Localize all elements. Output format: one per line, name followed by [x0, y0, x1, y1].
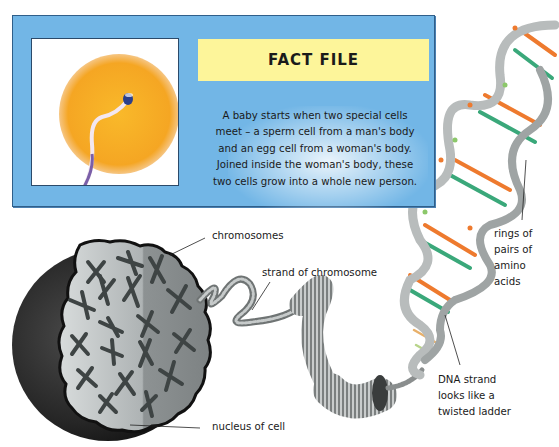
- label-line: acids: [494, 274, 532, 290]
- label-line: looks like a: [438, 388, 511, 404]
- label-strand: strand of chromosome: [262, 265, 377, 281]
- fact-line: A baby starts when two special cells: [199, 108, 431, 124]
- label-line: amino: [494, 258, 532, 274]
- label-line: rings of: [494, 226, 532, 242]
- label-line: DNA strand: [438, 372, 511, 388]
- fact-line: and an egg cell from a woman's body.: [199, 141, 431, 157]
- label-line: twisted ladder: [438, 404, 511, 420]
- label-line: pairs of: [494, 242, 532, 258]
- fact-file-title: FACT FILE: [268, 51, 359, 69]
- fact-file-text: A baby starts when two special cells mee…: [199, 108, 431, 190]
- nucleus-illustration: [12, 241, 210, 441]
- egg-cell-icon: [32, 39, 179, 186]
- label-chromosomes: chromosomes: [212, 228, 283, 244]
- fact-file-banner: FACT FILE: [198, 39, 429, 81]
- fact-line: Joined inside the woman's body, these: [199, 157, 431, 173]
- chromosome-strand-illustration: [200, 279, 422, 411]
- egg-sperm-image: [31, 38, 179, 186]
- label-dna: DNA strand looks like a twisted ladder: [438, 372, 511, 420]
- label-rings: rings of pairs of amino acids: [494, 226, 532, 290]
- fact-line: two cells grow into a whole new person.: [199, 174, 431, 190]
- fact-line: meet – a sperm cell from a man's body: [199, 124, 431, 140]
- label-nucleus: nucleus of cell: [212, 419, 285, 435]
- fact-file-box: FACT FILE A baby starts when two special…: [12, 15, 435, 207]
